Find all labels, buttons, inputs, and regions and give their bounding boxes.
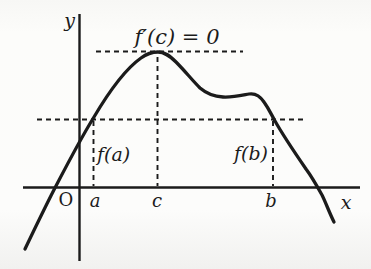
y-axis-label: y [63,9,75,31]
f-of-b-label: f(b) [232,142,268,164]
derivative-zero-annotation: f′(c) = 0 [133,25,220,49]
point-a-label: a [90,190,101,211]
point-b-label: b [265,190,277,211]
point-c-label: c [152,190,162,211]
graph-svg: y x O a c b f(a) f(b) f′(c) = 0 [0,0,371,269]
x-axis-label: x [341,191,352,213]
function-graph-figure: y x O a c b f(a) f(b) f′(c) = 0 [0,0,371,269]
function-curve [25,52,334,249]
f-of-a-label: f(a) [95,143,130,165]
origin-label: O [59,189,74,210]
